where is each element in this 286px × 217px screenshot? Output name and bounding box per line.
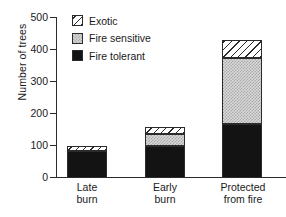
y-tick-400 (50, 49, 57, 50)
chart-legend: Exotic Fire sensitive Fire tolerant (72, 12, 151, 65)
y-tick-label-100: 100 (4, 140, 48, 151)
bar-segment-exotic (67, 146, 107, 151)
y-tick-label-200: 200 (4, 108, 48, 119)
bar-segment-fire-tolerant (67, 151, 107, 178)
bar-segment-fire-sensitive (222, 58, 262, 124)
y-tick-label-500: 500 (4, 12, 48, 23)
y-tick-100 (50, 145, 57, 146)
black-swatch-icon (72, 50, 83, 61)
y-tick-300 (50, 81, 57, 82)
x-label-early-burn: Early burn (135, 182, 195, 205)
bar-1 (67, 146, 107, 178)
bar-segment-exotic (222, 40, 262, 59)
y-tick-label-0: 0 (4, 172, 48, 183)
stacked-bar-chart: Number of trees 500 400 300 200 100 0 La… (0, 0, 286, 217)
y-tick-0 (50, 177, 57, 178)
bar-3 (222, 40, 262, 178)
legend-label-exotic: Exotic (89, 16, 118, 27)
bar-segment-exotic (145, 127, 185, 134)
x-label-late-burn: Late burn (57, 182, 117, 205)
legend-label-fire-tolerant: Fire tolerant (89, 51, 145, 62)
bar-segment-fire-sensitive (145, 134, 185, 146)
y-tick-label-300: 300 (4, 76, 48, 87)
bar-2 (145, 126, 185, 178)
legend-item-fire-sensitive: Fire sensitive (72, 30, 151, 48)
legend-item-exotic: Exotic (72, 12, 151, 30)
y-axis-line (56, 17, 57, 178)
y-tick-200 (50, 113, 57, 114)
hatch-swatch-icon (72, 15, 83, 26)
gray-swatch-icon (72, 33, 83, 44)
legend-item-fire-tolerant: Fire tolerant (72, 47, 151, 65)
bar-segment-fire-tolerant (222, 124, 262, 178)
plot-area: 500 400 300 200 100 0 Late burn Early bu… (0, 0, 286, 217)
legend-label-fire-sensitive: Fire sensitive (89, 33, 151, 44)
y-tick-label-400: 400 (4, 44, 48, 55)
x-label-protected-fire: Protected from fire (207, 182, 279, 205)
y-tick-500 (50, 17, 57, 18)
bar-segment-fire-tolerant (145, 146, 185, 178)
